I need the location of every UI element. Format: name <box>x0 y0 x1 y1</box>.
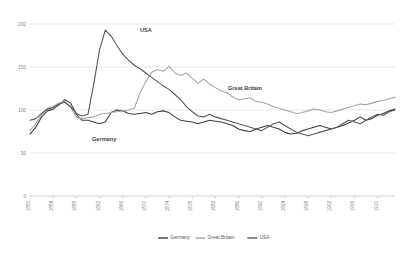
y-tick-label: 100 <box>18 108 26 113</box>
chart-canvas: 050100150200 185018541858186218661870187… <box>0 0 416 254</box>
y-tick-label: 150 <box>18 65 26 70</box>
x-tick-label: 1886 <box>235 201 240 212</box>
x-tick-label: 1862 <box>96 201 101 212</box>
x-tick-label: 1850 <box>26 201 31 212</box>
annotation-germany: Germany <box>92 136 117 142</box>
legend-label-great-britain: Great Britain <box>208 235 235 240</box>
x-tick-label: 1854 <box>49 201 54 212</box>
y-tick-label: 50 <box>21 151 27 156</box>
x-tick-label: 1866 <box>119 201 124 212</box>
annotation-great-britain: Great Britain <box>228 85 262 91</box>
chart-legend: GermanyGreat BritainUSA <box>158 235 270 240</box>
x-tick-label: 1882 <box>211 201 216 212</box>
x-tick-label: 1870 <box>142 201 147 212</box>
series-line-germany <box>30 100 395 134</box>
series-lines <box>30 30 395 136</box>
legend-label-usa: USA <box>260 235 271 240</box>
y-tick-label: 0 <box>23 194 26 199</box>
x-tick-label: 1878 <box>188 201 193 212</box>
x-tick-label: 1910 <box>374 201 379 212</box>
series-annotations: USAGreat BritainGermany <box>92 27 262 142</box>
x-tick-label: 1894 <box>281 201 286 212</box>
x-tick-label: 1898 <box>304 201 309 212</box>
x-tick-label: 1874 <box>165 201 170 212</box>
y-tick-label: 200 <box>18 22 26 27</box>
x-tick-label: 1890 <box>258 201 263 212</box>
x-axis-ticks <box>30 196 378 199</box>
x-tick-label: 1906 <box>350 201 355 212</box>
x-tick-label: 1902 <box>327 201 332 212</box>
legend-label-germany: Germany <box>170 235 190 240</box>
y-axis-tick-labels: 050100150200 <box>18 22 26 199</box>
annotation-usa: USA <box>140 27 152 33</box>
line-chart: 050100150200 185018541858186218661870187… <box>0 0 416 254</box>
x-tick-label: 1858 <box>72 201 77 212</box>
x-axis-tick-labels: 1850185418581862186618701874187818821886… <box>26 201 379 212</box>
